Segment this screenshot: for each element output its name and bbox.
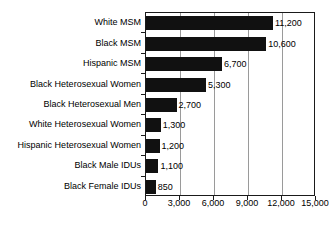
bar-value-label: 10,600	[268, 39, 296, 48]
x-axis-tick-label: 3,000	[168, 199, 191, 208]
bar-value-label: 1,200	[162, 141, 185, 150]
bar-value-label: 6,700	[224, 60, 247, 69]
plot-area: 11,20010,6006,7005,3002,7001,3001,2001,1…	[145, 12, 315, 196]
category-label: Hispanic MSM	[0, 59, 141, 68]
category-label: Black Heterosexual Men	[0, 100, 141, 109]
category-label: Black MSM	[0, 38, 141, 47]
bar-value-label: 5,300	[208, 80, 231, 89]
bar-chart: White MSMBlack MSMHispanic MSMBlack Hete…	[0, 0, 336, 226]
bar-value-label: 11,200	[275, 19, 302, 28]
category-label: Hispanic Heterosexual Women	[0, 140, 141, 149]
category-label: Black Male IDUs	[0, 161, 141, 170]
bar	[146, 159, 158, 173]
x-axis-tick-label: 15,000	[301, 199, 329, 208]
bar-row: 10,600	[146, 33, 314, 53]
bar-row: 1,100	[146, 156, 314, 176]
bar-value-label: 1,300	[163, 121, 186, 130]
bar-row: 2,700	[146, 95, 314, 115]
x-axis-tick-label: 6,000	[202, 199, 225, 208]
bar	[146, 118, 161, 132]
bar-row: 1,200	[146, 136, 314, 156]
category-axis: White MSMBlack MSMHispanic MSMBlack Hete…	[0, 12, 141, 196]
bar-row: 11,200	[146, 13, 314, 33]
bar-value-label: 1,100	[160, 162, 183, 171]
bar-series: 11,20010,6006,7005,3002,7001,3001,2001,1…	[146, 13, 314, 195]
bar-row: 6,700	[146, 54, 314, 74]
bar	[146, 78, 206, 92]
bar-row: 5,300	[146, 74, 314, 94]
bar	[146, 98, 177, 112]
bar-row: 1,300	[146, 115, 314, 135]
category-label: Black Heterosexual Women	[0, 79, 141, 88]
x-axis-labels: 03,0006,0009,00012,00015,000	[0, 199, 336, 215]
bar	[146, 139, 160, 153]
x-axis-tick-label: 9,000	[236, 199, 259, 208]
bar-value-label: 2,700	[179, 100, 202, 109]
category-label: White Heterosexual Women	[0, 120, 141, 129]
bar	[146, 180, 156, 194]
x-axis-tick-label: 12,000	[267, 199, 295, 208]
category-label: White MSM	[0, 18, 141, 27]
bar	[146, 37, 266, 51]
bar	[146, 16, 273, 30]
bar	[146, 57, 222, 71]
bar-row: 850	[146, 177, 314, 197]
bar-value-label: 850	[158, 182, 173, 191]
category-label: Black Female IDUs	[0, 181, 141, 190]
x-axis-tick-label: 0	[142, 199, 147, 208]
